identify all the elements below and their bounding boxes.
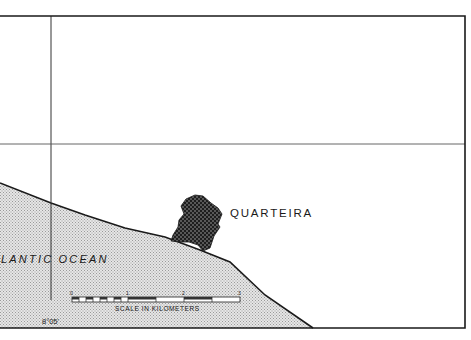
scale-tick-2: 2: [182, 290, 185, 296]
map-canvas: QUARTEIRA LANTIC OCEAN 8°05' 0 1 2: [0, 0, 471, 340]
longitude-label: 8°05': [42, 317, 60, 326]
place-label-quarteira: QUARTEIRA: [230, 207, 313, 219]
scale-tick-0: 0: [70, 290, 73, 296]
scale-tick-3: 3: [238, 290, 241, 296]
scale-title: SCALE IN KILOMETERS: [115, 305, 200, 312]
ocean-label: LANTIC OCEAN: [1, 253, 109, 265]
scale-tick-1: 1: [126, 290, 129, 296]
